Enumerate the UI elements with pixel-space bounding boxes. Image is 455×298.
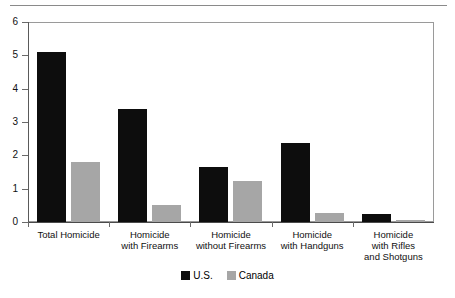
- bar-canada: [396, 220, 425, 222]
- bar-us: [199, 167, 228, 222]
- bar-us: [281, 143, 310, 222]
- x-axis-tick: [190, 222, 191, 227]
- x-axis-category-label-line: Homicide: [353, 229, 434, 240]
- x-axis-tick: [28, 222, 29, 227]
- bar-group: [272, 22, 353, 222]
- bar-group: [109, 22, 190, 222]
- bar-chart-figure: 0123456 Total HomicideHomicidewith Firea…: [0, 0, 455, 298]
- legend-label: Canada: [239, 271, 274, 282]
- bar-canada: [233, 181, 262, 222]
- bar-us: [37, 52, 66, 222]
- bar-canada: [71, 162, 100, 222]
- bar-us: [118, 109, 147, 222]
- x-axis-category-label-line: Homicide: [272, 229, 353, 240]
- legend-item: Canada: [227, 270, 274, 282]
- legend-label: U.S.: [193, 271, 212, 282]
- x-axis-category-label-line: with Handguns: [272, 240, 353, 251]
- legend-swatch-icon: [181, 271, 190, 280]
- x-axis-category-label-line: Homicide: [190, 229, 271, 240]
- x-axis-category-label: Homicidewithout Firearms: [190, 229, 271, 251]
- x-axis-category-label: Homicidewith Firearms: [109, 229, 190, 251]
- y-axis-tick-label: 6: [4, 17, 18, 27]
- y-axis-tick-label: 1: [4, 184, 18, 194]
- y-axis-tick-label: 4: [4, 84, 18, 94]
- x-axis-category-label-line: with Rifles: [353, 240, 434, 251]
- x-axis-tick: [353, 222, 354, 227]
- x-axis-category-label-line: Homicide: [109, 229, 190, 240]
- bar-canada: [315, 213, 344, 222]
- x-axis-category-label: Homicidewith Handguns: [272, 229, 353, 251]
- bars-layer: [28, 22, 434, 222]
- top-divider-rule: [10, 5, 447, 6]
- bar-group: [28, 22, 109, 222]
- y-axis-tick-label: 0: [4, 217, 18, 227]
- y-axis-tick-label: 3: [4, 117, 18, 127]
- y-axis-tick-label: 2: [4, 150, 18, 160]
- chart-legend: U.S.Canada: [0, 270, 455, 283]
- x-axis-line: [28, 222, 434, 223]
- x-axis-category-label-line: Total Homicide: [28, 229, 109, 240]
- legend-swatch-icon: [227, 271, 236, 280]
- x-axis-category-label-line: without Firearms: [190, 240, 271, 251]
- x-axis-category-label: Total Homicide: [28, 229, 109, 240]
- legend-item: U.S.: [181, 270, 212, 282]
- y-axis-tick-label: 5: [4, 50, 18, 60]
- bar-group: [353, 22, 434, 222]
- x-axis-tick: [272, 222, 273, 227]
- x-axis-category-label-line: with Firearms: [109, 240, 190, 251]
- bar-canada: [152, 205, 181, 222]
- x-axis-tick: [109, 222, 110, 227]
- x-axis-category-label: Homicidewith Riflesand Shotguns: [353, 229, 434, 262]
- bar-group: [190, 22, 271, 222]
- bar-us: [362, 214, 391, 222]
- x-axis-category-label-line: and Shotguns: [353, 251, 434, 262]
